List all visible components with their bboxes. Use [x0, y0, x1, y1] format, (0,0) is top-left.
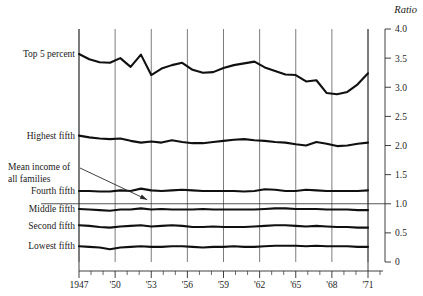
- x-tick-label-1965: '65: [290, 280, 301, 290]
- ratio-tick-label-1.0: 1.0: [395, 199, 407, 209]
- x-tick-label-1959: '59: [218, 280, 229, 290]
- series-label-middle-fifth: Middle fifth: [29, 204, 75, 214]
- ratio-tick-label-1.5: 1.5: [395, 170, 407, 180]
- chart-canvas: 1947'50'53'56'59'62'65'68'71 4.03.53.02.…: [0, 0, 423, 296]
- x-axis-tick-labels: 1947'50'53'56'59'62'65'68'71: [70, 280, 374, 290]
- series-label-top-5-percent: Top 5 percent: [23, 49, 75, 59]
- series-label-highest-fifth: Highest fifth: [27, 131, 76, 141]
- x-tick-label-1950: '50: [110, 280, 121, 290]
- ratio-axis-tick-labels: 4.03.53.02.52.01.51.00.50: [395, 24, 407, 267]
- x-tick-label-1962: '62: [254, 280, 265, 290]
- ratio-tick-label-4.0: 4.0: [395, 24, 407, 34]
- ratio-tick-label-3.5: 3.5: [395, 54, 407, 64]
- series-line-middle-fifth: [79, 208, 368, 210]
- income-ratio-chart: 1947'50'53'56'59'62'65'68'71 4.03.53.02.…: [0, 0, 423, 296]
- series-label-second-fifth: Second fifth: [28, 221, 75, 231]
- annotation-text-line1: Mean income of: [8, 162, 71, 172]
- ratio-tick-label-3.0: 3.0: [395, 83, 407, 93]
- x-tick-label-1971: '71: [362, 280, 373, 290]
- chart-background: [0, 0, 423, 296]
- ratio-tick-label-0.5: 0.5: [395, 228, 407, 238]
- ratio-axis-unit-label: Ratio: [393, 4, 417, 15]
- series-label-lowest-fifth: Lowest fifth: [28, 241, 75, 251]
- ratio-tick-label-2.0: 2.0: [395, 141, 407, 151]
- ratio-tick-label-2.5: 2.5: [395, 112, 407, 122]
- series-label-fourth-fifth: Fourth fifth: [31, 186, 75, 196]
- x-tick-label-1953: '53: [146, 280, 157, 290]
- ratio-tick-label-0: 0: [395, 257, 400, 267]
- annotation-text-line2: all families: [8, 174, 51, 184]
- x-tick-label-1968: '68: [326, 280, 337, 290]
- x-tick-label-1947: 1947: [70, 280, 89, 290]
- x-tick-label-1956: '56: [182, 280, 193, 290]
